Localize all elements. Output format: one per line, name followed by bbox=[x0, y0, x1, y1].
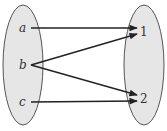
arrow-b-to-1 bbox=[31, 34, 137, 65]
domain-element-c: c bbox=[19, 95, 26, 109]
arrow-b-to-2 bbox=[31, 65, 137, 95]
codomain-element-2: 2 bbox=[140, 92, 148, 106]
domain-element-b: b bbox=[19, 58, 27, 72]
codomain-element-1: 1 bbox=[140, 25, 148, 39]
codomain-set bbox=[124, 5, 164, 125]
domain-element-a: a bbox=[19, 21, 26, 35]
arrow-c-to-2 bbox=[31, 101, 137, 102]
mapping-diagram: a b c 1 2 bbox=[0, 0, 167, 131]
